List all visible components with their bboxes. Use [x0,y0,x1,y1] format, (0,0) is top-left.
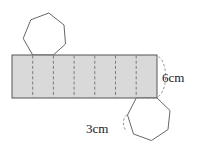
net-diagram-figure: 6cm 3cm [0,0,202,148]
net-diagram-canvas: 6cm 3cm [0,0,202,148]
side-dimension-brace [123,115,127,132]
side-dimension-label: 3cm [86,121,108,136]
bottom-heptagon-outline [128,98,171,141]
height-dimension-label: 6cm [162,70,184,85]
lateral-strip-faces [12,55,157,98]
top-heptagon-outline [23,13,65,55]
